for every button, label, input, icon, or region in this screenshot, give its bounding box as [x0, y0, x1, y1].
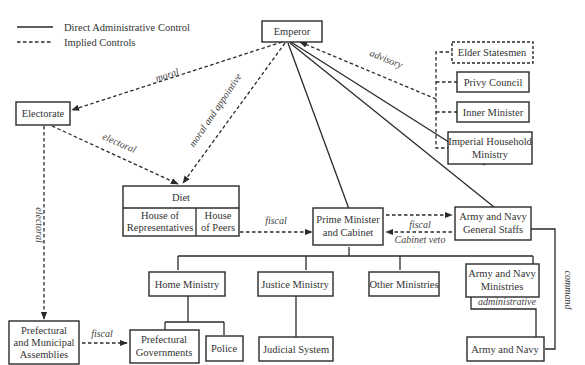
node-pref-gov-label-1: Prefectural — [141, 334, 187, 345]
node-general-staffs[interactable]: Army and Navy General Staffs — [455, 207, 531, 240]
edge-label-fiscal-staffs: fiscal — [409, 219, 431, 230]
node-house-peers[interactable]: House of Peers — [201, 210, 235, 233]
edge-home-children — [165, 296, 224, 335]
org-diagram: Direct Administrative Control Implied Co… — [0, 0, 585, 365]
edge-label-moral: moral — [154, 66, 180, 84]
node-house-reps-label-1: House of — [141, 210, 180, 221]
node-inner-minister[interactable]: Inner Minister — [457, 102, 529, 122]
node-other-ministries-label: Other Ministries — [369, 279, 438, 290]
node-other-ministries[interactable]: Other Ministries — [369, 272, 439, 296]
node-prefectural-assemblies[interactable]: Prefectural and Municipal Assemblies — [9, 321, 79, 364]
node-home-ministry[interactable]: Home Ministry — [149, 272, 225, 296]
node-house-reps-label-2: Representatives — [127, 222, 193, 233]
edge-emperor-staffs — [290, 43, 494, 207]
node-imperial-household-label-2: Ministry — [472, 149, 509, 160]
node-justice-ministry-label: Justice Ministry — [261, 279, 329, 290]
node-police-label: Police — [211, 343, 238, 354]
node-judicial-system-label: Judicial System — [263, 344, 329, 355]
node-pm-label-2: and Cabinet — [323, 227, 374, 238]
node-electorate[interactable]: Electorate — [16, 102, 70, 125]
node-police[interactable]: Police — [206, 336, 243, 361]
legend-dashed-label: Implied Controls — [64, 37, 135, 48]
node-justice-ministry[interactable]: Justice Ministry — [258, 272, 333, 296]
node-inner-minister-label: Inner Minister — [463, 107, 524, 118]
node-electorate-label: Electorate — [22, 108, 65, 119]
node-general-staffs-label-2: General Staffs — [463, 224, 523, 235]
node-judicial-system[interactable]: Judicial System — [259, 337, 333, 361]
node-elder-statesmen-label: Elder Statesmen — [458, 47, 527, 58]
node-elder-statesmen[interactable]: Elder Statesmen — [452, 42, 533, 63]
node-prefectural-governments[interactable]: Prefectural Governments — [130, 330, 199, 363]
node-emperor-label: Emperor — [274, 26, 311, 37]
node-privy-council-label: Privy Council — [464, 77, 523, 88]
node-army-navy-ministries[interactable]: Army and Navy Ministries — [466, 264, 539, 297]
node-house-peers-label-2: of Peers — [201, 222, 235, 233]
edge-label-fiscal-diet: fiscal — [265, 215, 287, 226]
node-prime-minister[interactable]: Prime Minister and Cabinet — [313, 208, 383, 245]
node-assemblies-label-2: and Municipal — [14, 337, 75, 348]
node-imperial-household[interactable]: Imperial Household Ministry — [448, 132, 533, 164]
node-army-navy[interactable]: Army and Navy — [467, 337, 544, 361]
node-emperor[interactable]: Emperor — [262, 21, 322, 42]
edge-label-fiscal-assemblies: fiscal — [91, 328, 113, 339]
edge-label-electoral-assemblies: electoral — [34, 207, 45, 243]
node-home-ministry-label: Home Ministry — [155, 279, 220, 290]
node-general-staffs-label-1: Army and Navy — [459, 211, 527, 222]
node-house-peers-label-1: House — [205, 210, 232, 221]
edge-label-moral-appointive: moral and appointive — [186, 71, 244, 149]
node-diet[interactable]: Diet House of Representatives House of P… — [123, 186, 239, 236]
node-diet-label: Diet — [172, 192, 190, 203]
node-army-navy-ministries-label-2: Ministries — [481, 281, 524, 292]
legend-solid-label: Direct Administrative Control — [64, 22, 190, 33]
legend: Direct Administrative Control Implied Co… — [17, 22, 190, 48]
node-assemblies-label-3: Assemblies — [20, 349, 68, 360]
node-army-navy-label: Army and Navy — [471, 344, 539, 355]
node-assemblies-label-1: Prefectural — [21, 325, 67, 336]
edge-label-command: command — [563, 271, 574, 311]
node-pref-gov-label-2: Governments — [136, 347, 193, 358]
edge-label-cabinet-veto: Cabinet veto — [395, 234, 446, 245]
node-privy-council[interactable]: Privy Council — [457, 72, 529, 92]
node-pm-label-1: Prime Minister — [316, 214, 380, 225]
node-imperial-household-label-1: Imperial Household — [448, 136, 532, 147]
node-army-navy-ministries-label-1: Army and Navy — [468, 268, 536, 279]
edge-emperor-pm — [288, 43, 349, 209]
edge-label-advisory: advisory — [368, 47, 405, 70]
edge-emperor-diet — [183, 43, 285, 183]
